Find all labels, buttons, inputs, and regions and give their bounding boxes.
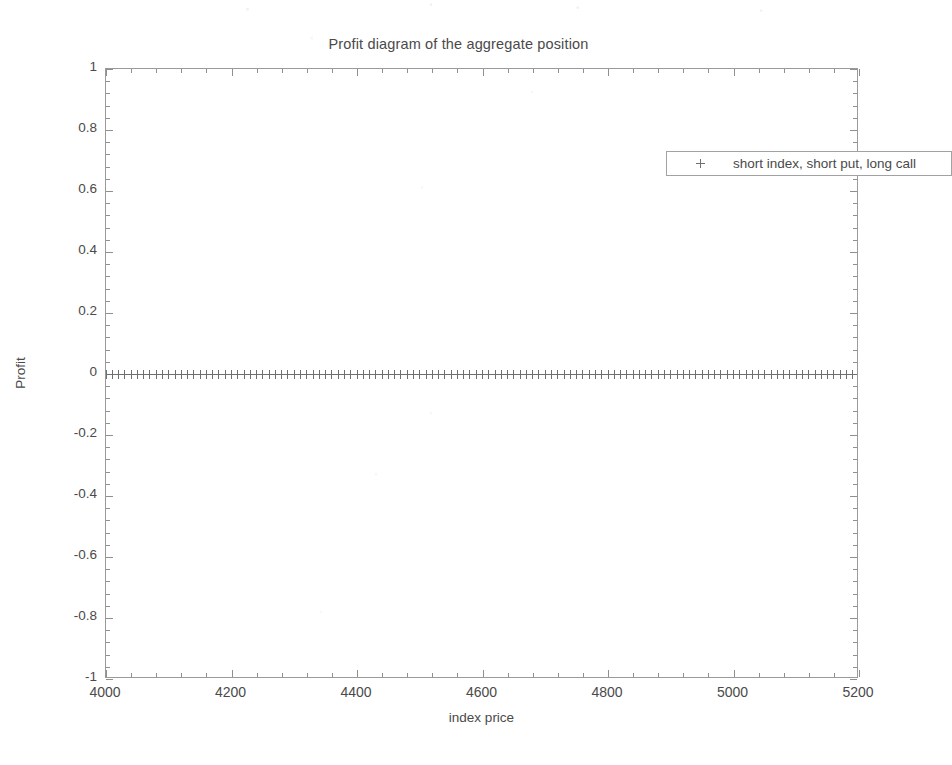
axis-tick: [106, 679, 113, 680]
chart-title: Profit diagram of the aggregate position: [0, 36, 917, 52]
axis-tick: [859, 69, 860, 76]
y-axis-label: Profit: [13, 357, 28, 389]
x-tick-label: 5200: [842, 684, 873, 700]
x-axis-label: index price: [105, 710, 858, 725]
axis-tick: [850, 679, 857, 680]
x-tick-label: 4000: [89, 684, 120, 700]
x-tick-label: 4400: [340, 684, 371, 700]
x-tick-label: 5000: [717, 684, 748, 700]
x-tick-label: 4600: [466, 684, 497, 700]
axis-tick: [859, 670, 860, 677]
chart-legend[interactable]: short index, short put, long call: [666, 151, 952, 176]
plot-area: short index, short put, long call: [105, 68, 858, 678]
data-point-marker: [855, 370, 858, 379]
x-tick-label: 4200: [215, 684, 246, 700]
x-tick-label: 4800: [591, 684, 622, 700]
legend-marker-cell: [667, 152, 733, 175]
legend-entry-label: short index, short put, long call: [733, 156, 916, 171]
plus-marker-icon: [696, 159, 705, 168]
